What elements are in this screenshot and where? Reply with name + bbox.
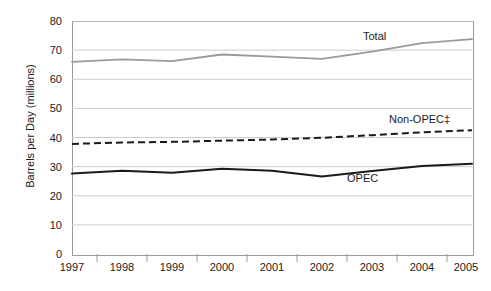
y-tick-label-40: 40 (38, 133, 62, 143)
x-tick-label-2005: 2005 (443, 261, 489, 273)
x-tick-label-2000: 2000 (199, 261, 245, 273)
y-tick-label-30: 30 (38, 162, 62, 172)
y-tick-label-70: 70 (38, 45, 62, 55)
series-label-opec: OPEC (347, 172, 378, 184)
x-tick-label-1997: 1997 (49, 261, 95, 273)
x-tick-label-2001: 2001 (249, 261, 295, 273)
plot-canvas (72, 21, 473, 255)
series-line-opec (72, 164, 472, 177)
series-label-total: Total (363, 30, 386, 42)
x-tick-label-2004: 2004 (399, 261, 445, 273)
x-tick-label-2002: 2002 (299, 261, 345, 273)
y-tick-label-80: 80 (38, 16, 62, 26)
y-tick-label-0: 0 (38, 249, 62, 259)
x-tick-label-1998: 1998 (99, 261, 145, 273)
y-tick-label-20: 20 (38, 191, 62, 201)
y-axis-tick-labels: 80 70 60 50 40 30 20 10 0 (34, 0, 62, 291)
y-tick-label-60: 60 (38, 74, 62, 84)
series-label-non-opec: Non-OPEC‡ (389, 113, 450, 125)
y-tick-label-50: 50 (38, 103, 62, 113)
x-tick-label-2003: 2003 (349, 261, 395, 273)
gridlines (72, 50, 472, 225)
oil-production-line-chart: Barrels per Day (millions) 80 70 60 50 4… (0, 0, 491, 291)
y-tick-label-10: 10 (38, 220, 62, 230)
x-tick-label-1999: 1999 (149, 261, 195, 273)
